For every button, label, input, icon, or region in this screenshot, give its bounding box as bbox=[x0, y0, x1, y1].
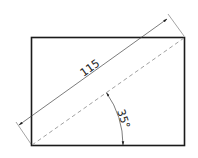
extension-line-left bbox=[16, 122, 31, 144]
length-dimension-label: 115 bbox=[78, 57, 103, 80]
angle-dimension-label: 35° bbox=[114, 108, 132, 131]
drawing-canvas: 115 35° bbox=[0, 0, 198, 158]
extension-line-right bbox=[168, 14, 184, 36]
diagonal-dashed-line bbox=[32, 38, 184, 145]
